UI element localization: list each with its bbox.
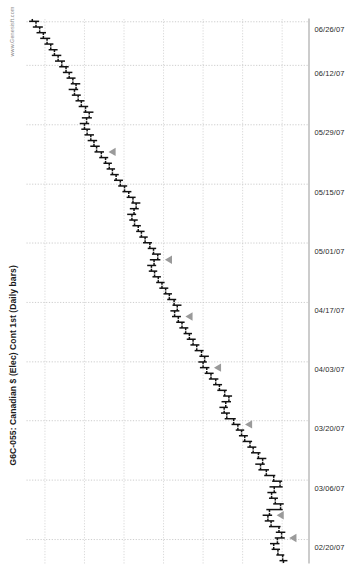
date-axis-labels: 02/20/0703/06/0703/20/0704/03/0704/17/07… <box>310 18 342 563</box>
date-tick-label: 04/03/07 <box>314 364 344 373</box>
ohlc-bar <box>129 217 137 222</box>
ohlc-bar <box>152 274 160 279</box>
ohlc-bar <box>142 240 151 245</box>
ohlc-bar <box>170 308 179 313</box>
ohlc-bar <box>275 529 284 534</box>
ohlc-bar <box>273 501 284 506</box>
ohlc-bar <box>54 58 64 63</box>
ohlc-bar <box>66 75 75 80</box>
ohlc-bar <box>256 456 265 461</box>
ohlc-bar <box>194 348 203 353</box>
ohlc-bar <box>36 30 45 35</box>
ohlc-bar <box>44 41 53 46</box>
date-tick-label: 06/12/07 <box>314 68 344 77</box>
ohlc-bar <box>68 87 77 92</box>
ohlc-bar <box>235 427 243 432</box>
date-axis-line <box>308 18 309 563</box>
ohlc-bar <box>242 439 251 444</box>
ohlc-bar <box>190 342 199 347</box>
ohlc-bar <box>258 467 269 472</box>
signal-triangle-marker <box>185 312 192 320</box>
ohlc-bar <box>251 450 260 455</box>
ohlc-bar <box>213 382 222 387</box>
ohlc-bar <box>163 291 171 296</box>
date-tick-label: 03/20/07 <box>314 423 344 432</box>
date-tick-label: 06/26/07 <box>314 24 344 33</box>
ohlc-bar <box>122 189 131 194</box>
ohlc-bar <box>87 138 96 143</box>
ohlc-bar <box>29 18 39 23</box>
ohlc-bar <box>223 393 232 398</box>
ohlc-bar <box>272 478 282 483</box>
ohlc-bar <box>51 53 60 58</box>
ohlc-bar <box>32 24 42 29</box>
ohlc-bar <box>147 246 155 251</box>
ohlc-bar <box>276 552 284 557</box>
date-tick-label: 05/15/07 <box>314 187 344 196</box>
ohlc-bar <box>204 370 213 375</box>
signal-triangle-marker <box>164 255 171 263</box>
ohlc-bar <box>79 121 88 126</box>
signal-triangle-marker <box>108 147 115 155</box>
ohlc-bar <box>131 200 140 205</box>
ohlc-bar <box>75 98 84 103</box>
ohlc-bar <box>151 251 160 256</box>
date-tick-label: 02/20/07 <box>314 542 344 551</box>
ohlc-bar <box>183 331 191 336</box>
ohlc-bar <box>255 461 264 466</box>
page-title: G6C-055: Canadian $ (Elec) Cont 1st (Dai… <box>7 265 17 465</box>
ohlc-bar <box>139 234 147 239</box>
ohlc-bar <box>231 422 240 427</box>
ohlc-bar <box>279 558 287 563</box>
ohlc-bar <box>267 490 276 495</box>
ohlc-bar <box>270 541 279 546</box>
signal-triangle-marker <box>276 511 283 519</box>
ohlc-bar <box>224 416 235 421</box>
ohlc-bar <box>103 160 111 165</box>
ohlc-bar <box>106 166 114 171</box>
ohlc-bar <box>221 410 230 415</box>
ohlc-bar <box>186 336 195 341</box>
ohlc-bar <box>269 484 282 489</box>
ohlc-series <box>26 18 308 563</box>
ohlc-bar <box>126 194 135 199</box>
ohlc-bar <box>274 535 284 540</box>
date-tick-label: 04/17/07 <box>314 305 344 314</box>
watermark-text: www.Genesisft.com <box>8 6 14 56</box>
ohlc-bar <box>132 223 140 228</box>
ohlc-bar <box>198 359 206 364</box>
ohlc-bar <box>118 183 127 188</box>
ohlc-bar <box>208 376 217 381</box>
date-tick-label: 03/06/07 <box>314 483 344 492</box>
ohlc-bar <box>40 35 50 40</box>
ohlc-bar <box>159 285 168 290</box>
ohlc-bar <box>148 268 156 273</box>
chart-canvas: G6C-055: Canadian $ (Elec) Cont 1st (Dai… <box>0 0 349 585</box>
ohlc-bar <box>238 433 247 438</box>
ohlc-bar <box>176 319 184 324</box>
signal-triangle-marker <box>213 363 220 371</box>
ohlc-bar <box>167 297 176 302</box>
ohlc-bar <box>81 115 91 120</box>
ohlc-bar <box>271 546 279 551</box>
ohlc-bar <box>172 302 181 307</box>
ohlc-bar <box>268 495 277 500</box>
ohlc-bar <box>156 280 164 285</box>
ohlc-bar <box>199 353 208 358</box>
ohlc-bar <box>127 211 136 216</box>
date-tick-label: 05/01/07 <box>314 246 344 255</box>
ohlc-bar <box>99 155 108 160</box>
ohlc-bar <box>217 387 226 392</box>
ohlc-bar <box>247 444 256 449</box>
ohlc-bar <box>171 314 180 319</box>
ohlc-bar <box>264 518 273 523</box>
ohlc-bar <box>129 206 138 211</box>
plot-area <box>26 18 308 563</box>
ohlc-bar <box>136 229 144 234</box>
ohlc-bar <box>199 365 208 370</box>
ohlc-bar <box>90 143 99 148</box>
chart-stage: G6C-055: Canadian $ (Elec) Cont 1st (Dai… <box>0 0 349 585</box>
ohlc-bar <box>81 126 90 131</box>
ohlc-bar <box>94 149 103 154</box>
ohlc-bar <box>147 263 156 268</box>
